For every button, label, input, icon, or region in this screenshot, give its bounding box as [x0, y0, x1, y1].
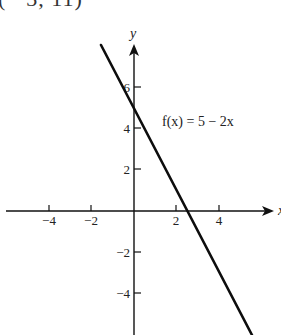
x-tick-label: 2 — [173, 213, 180, 228]
x-tick-label: −4 — [42, 213, 56, 228]
y-tick-label: 4 — [124, 121, 131, 136]
y-tick-label: 2 — [124, 162, 131, 177]
function-label: f(x) = 5 − 2x — [162, 114, 234, 130]
x-tick-label: 4 — [216, 213, 223, 228]
y-axis-label: y — [128, 26, 137, 41]
y-tick-label: −4 — [116, 286, 130, 301]
function-plot: x y −4 −2 2 4 6 4 2 −2 −4 f(x) = 5 − 2x — [0, 0, 281, 335]
x-axis-label: x — [277, 203, 281, 218]
y-tick-label: −2 — [116, 245, 130, 260]
x-tick-label: −2 — [84, 213, 98, 228]
